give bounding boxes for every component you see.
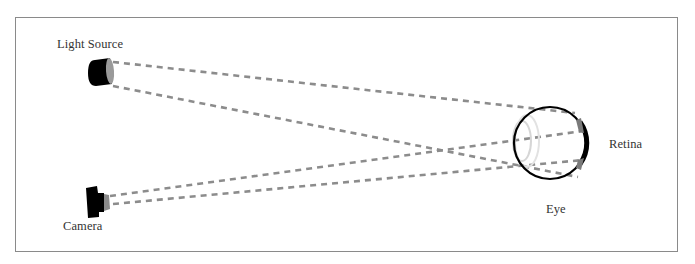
ray-camera-to-retina-bottom — [113, 160, 583, 204]
light-source-icon — [88, 58, 115, 86]
camera-icon — [86, 186, 110, 218]
light-rays — [110, 62, 583, 204]
retina-label: Retina — [609, 137, 642, 152]
ray-light-to-retina-top — [113, 62, 575, 113]
light-source-label: Light Source — [57, 37, 123, 52]
camera-label: Camera — [63, 219, 102, 234]
eye-label: Eye — [546, 202, 566, 217]
eyeball-outline — [514, 107, 586, 179]
eye-icon — [513, 107, 587, 179]
ray-light-to-retina-bottom — [113, 86, 578, 177]
